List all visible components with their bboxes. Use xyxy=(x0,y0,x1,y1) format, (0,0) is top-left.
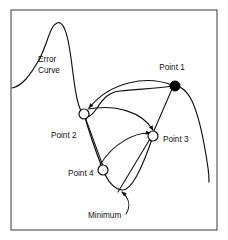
point-1-label: Point 1 xyxy=(159,63,185,72)
point-3-label: Point 3 xyxy=(163,135,189,144)
minimum-label: Minimum xyxy=(88,211,121,220)
error-curve-label-line2: Curve xyxy=(38,66,60,75)
error-curve-figure: Error Curve Point 1 Point 2 Point 3 Poin… xyxy=(0,0,228,240)
point-2-label: Point 2 xyxy=(51,131,77,140)
point-4-label: Point 4 xyxy=(68,169,94,178)
point-3-marker[interactable] xyxy=(148,131,158,141)
figure-border xyxy=(11,10,217,230)
error-curve-label-line1: Error xyxy=(38,55,56,64)
point-4-marker[interactable] xyxy=(98,165,108,175)
point-1-marker[interactable] xyxy=(170,81,180,91)
point-2-marker[interactable] xyxy=(79,109,89,119)
